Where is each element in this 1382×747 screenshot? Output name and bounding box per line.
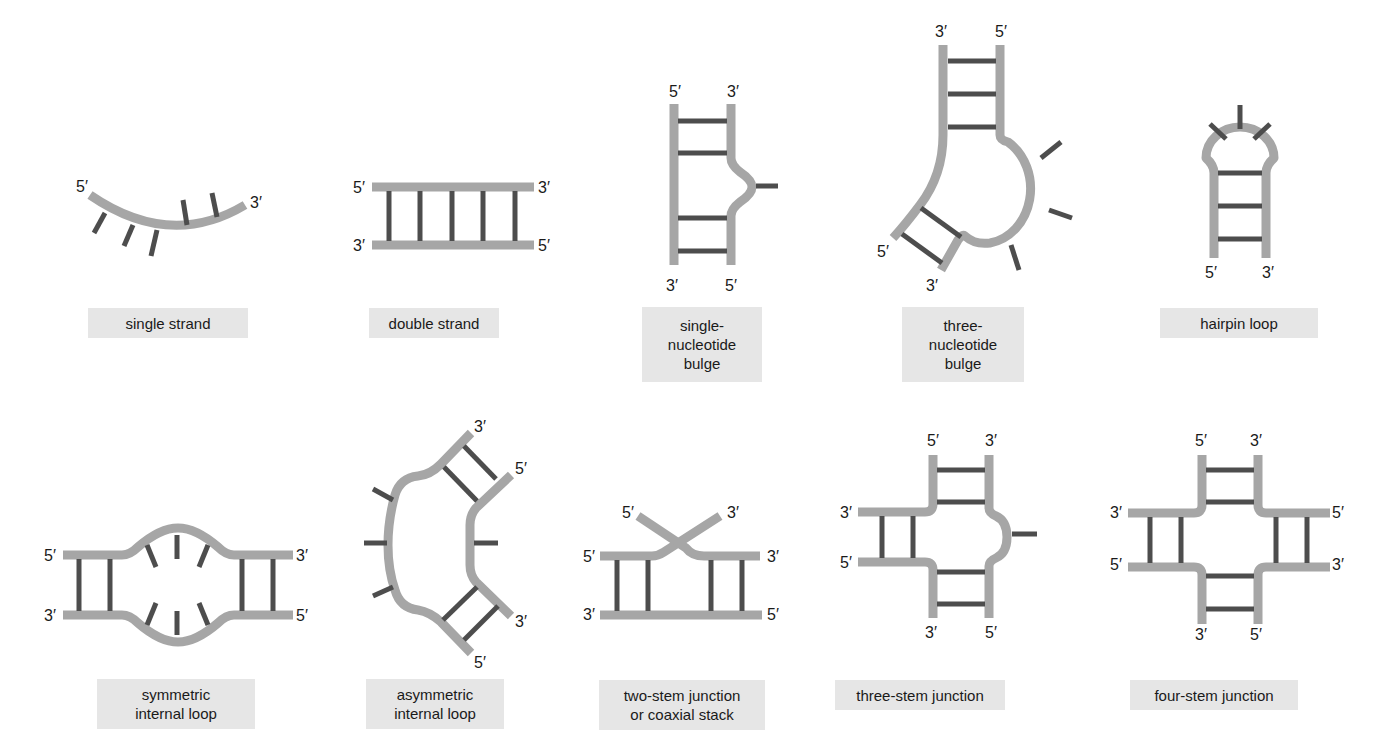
strand-end-label: 5′: [474, 654, 486, 671]
strand-end-label: 5′: [353, 179, 365, 196]
caption-three-stem-junction: three-stem junction: [835, 680, 1005, 710]
hairpin-loop-structure: 5′3′: [1205, 105, 1274, 281]
strand-end-label: 5′: [669, 83, 681, 100]
strand-end-label: 3′: [250, 194, 262, 211]
strand-end-label: 5′: [296, 607, 308, 624]
strand-end-label: 3′: [44, 607, 56, 624]
caption-single-nucleotide-bulge: single- nucleotide bulge: [642, 307, 762, 382]
strand-end-label: 3′: [1195, 626, 1207, 643]
strand-end-label: 3′: [727, 504, 739, 521]
strand-end-label: 5′: [44, 547, 56, 564]
strand-end-label: 5′: [76, 178, 88, 195]
strand-end-label: 5′: [985, 624, 997, 641]
strand-end-label: 3′: [474, 418, 486, 435]
strand-end-label: 3′: [515, 613, 527, 630]
strand-end-label: 3′: [353, 237, 365, 254]
strand-end-label: 5′: [515, 460, 527, 477]
two-stem-junction-structure: 5′3′5′3′3′5′: [583, 504, 779, 623]
strand-end-label: 5′: [1250, 626, 1262, 643]
strand-end-label: 5′: [622, 504, 634, 521]
strand-end-label: 3′: [1250, 432, 1262, 449]
strand-end-label: 3′: [538, 179, 550, 196]
strand-end-label: 5′: [927, 432, 939, 449]
caption-text: hairpin loop: [1200, 314, 1278, 333]
caption-text: three-stem junction: [856, 686, 984, 705]
caption-text: double strand: [389, 314, 480, 333]
strand-end-label: 3′: [935, 23, 947, 40]
single-strand-structure: 5′3′: [76, 178, 262, 256]
caption-text: four-stem junction: [1154, 686, 1273, 705]
caption-two-stem-junction: two-stem junction or coaxial stack: [599, 680, 765, 730]
three-nucleotide-bulge-structure: 3′5′5′3′: [877, 23, 1072, 294]
asymmetric-internal-loop-structure: 3′5′3′5′: [364, 418, 527, 671]
strand-end-label: 3′: [666, 277, 678, 294]
end-labels: 5′3′3′5′3′5′: [840, 432, 997, 641]
strand-end-label: 3′: [727, 83, 739, 100]
caption-single-strand: single strand: [88, 308, 248, 338]
strand-end-label: 3′: [767, 548, 779, 565]
double-strand-structure: 5′3′3′5′: [353, 179, 550, 254]
caption-text: symmetric internal loop: [135, 685, 217, 723]
single-nucleotide-bulge-structure: 5′3′3′5′: [666, 83, 778, 294]
end-labels: 5′3′: [1205, 264, 1274, 281]
caption-text: single- nucleotide bulge: [668, 316, 736, 373]
caption-three-nucleotide-bulge: three- nucleotide bulge: [902, 307, 1024, 382]
caption-text: asymmetric internal loop: [394, 685, 476, 723]
symmetric-internal-loop-structure: 5′3′3′5′: [44, 528, 308, 642]
strand-end-label: 3′: [1110, 504, 1122, 521]
strand-end-label: 5′: [538, 237, 550, 254]
caption-symmetric-internal-loop: symmetric internal loop: [97, 679, 255, 729]
strand-end-label: 5′: [1195, 432, 1207, 449]
strand-end-label: 3′: [840, 504, 852, 521]
strand-end-label: 3′: [985, 432, 997, 449]
strand-end-label: 5′: [725, 277, 737, 294]
three-stem-junction-structure: 5′3′3′5′3′5′: [840, 432, 1037, 641]
strand-end-label: 5′: [583, 548, 595, 565]
strand-end-label: 5′: [1332, 504, 1344, 521]
strand-end-label: 3′: [1262, 264, 1274, 281]
strand-end-label: 3′: [926, 277, 938, 294]
strand-end-label: 5′: [767, 606, 779, 623]
caption-text: two-stem junction or coaxial stack: [624, 686, 741, 724]
caption-asymmetric-internal-loop: asymmetric internal loop: [366, 679, 504, 729]
end-labels: 5′3′5′3′3′5′: [583, 504, 779, 623]
strand-end-label: 5′: [1110, 556, 1122, 573]
caption-text: three- nucleotide bulge: [929, 316, 997, 373]
four-stem-junction-structure: 5′3′3′5′5′3′3′5′: [1110, 432, 1344, 643]
caption-hairpin-loop: hairpin loop: [1160, 308, 1318, 338]
strand-end-label: 5′: [840, 554, 852, 571]
strand-end-label: 3′: [583, 606, 595, 623]
caption-four-stem-junction: four-stem junction: [1130, 680, 1298, 710]
caption-double-strand: double strand: [369, 308, 499, 338]
strand-end-label: 3′: [925, 624, 937, 641]
strand-end-label: 3′: [296, 547, 308, 564]
strand-end-label: 5′: [877, 243, 889, 260]
strand-end-label: 5′: [1205, 264, 1217, 281]
caption-text: single strand: [125, 314, 210, 333]
strand-end-label: 5′: [995, 23, 1007, 40]
strand-end-label: 3′: [1332, 556, 1344, 573]
